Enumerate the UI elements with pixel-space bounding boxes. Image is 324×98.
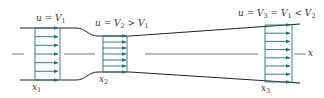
x2-label: x2 — [99, 75, 108, 86]
subscript: 1 — [37, 86, 41, 94]
label-text: < V — [292, 8, 312, 18]
label-text: u = V — [238, 8, 264, 18]
label-text: x — [308, 48, 313, 58]
bottom-wall — [20, 72, 300, 83]
x3-label: x3 — [261, 84, 270, 95]
section2-velocity-label: u = V2 > V1 — [95, 19, 149, 30]
label-text: > V — [125, 18, 145, 28]
velocity-profile-1 — [35, 28, 60, 80]
subscript: 1 — [62, 17, 66, 25]
label-text: = V — [268, 8, 288, 18]
subscript: 1 — [144, 22, 148, 30]
subscript: 3 — [266, 87, 270, 95]
x1-label: x1 — [32, 83, 41, 94]
velocity-profile-3 — [265, 24, 292, 83]
subscript: 2 — [311, 12, 315, 20]
x-axis-label: x — [308, 49, 313, 58]
section3-velocity-label: u = V3 = V1 < V2 — [238, 9, 316, 20]
subscript: 2 — [104, 78, 108, 86]
velocity-profile-2 — [103, 36, 127, 72]
label-text: u = V — [95, 18, 121, 28]
section1-velocity-label: u = V1 — [36, 14, 66, 25]
label-text: u = V — [36, 13, 62, 23]
top-wall — [20, 24, 300, 36]
